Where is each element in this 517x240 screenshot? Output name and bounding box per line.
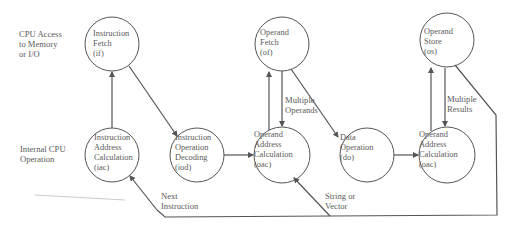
node-oac-2: Operand Address Calculation (oac) xyxy=(419,130,458,170)
row-label-internal-cpu: Internal CPU Operation xyxy=(20,144,66,164)
node-of: Operand Fetch (of) xyxy=(260,28,289,58)
node-os: Operand Store (os) xyxy=(424,27,453,57)
node-do: Data Operation (do) xyxy=(340,133,374,163)
edge-if-to-iod xyxy=(129,66,177,136)
node-iod: Instruction Operation Decoding (iod) xyxy=(175,133,211,173)
edge-return-to-iac xyxy=(130,176,157,210)
edge-label-string-or-vector: String or Vector xyxy=(325,191,355,211)
node-if: Instruction Fetch (if) xyxy=(93,29,129,59)
scan-smudge xyxy=(35,195,125,200)
edge-label-multiple-results: Multiple Results xyxy=(447,94,477,114)
edge-label-multiple-operands: Multiple Operands xyxy=(285,95,318,115)
node-oac-1: Operand Address Calculation (oac) xyxy=(254,130,293,170)
edge-label-next-instruction: Next Instruction xyxy=(161,191,198,211)
row-label-cpu-access: CPU Access to Memory or I/O xyxy=(19,29,62,59)
node-iac: Instruction Address Calculation (iac) xyxy=(94,133,133,173)
